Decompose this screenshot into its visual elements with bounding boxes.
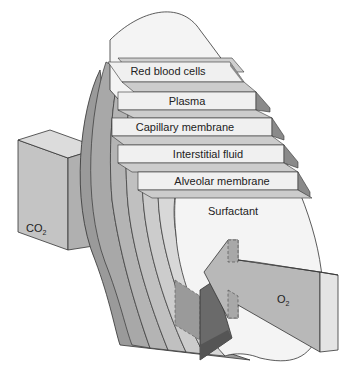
layer-label-surfactant: Surfactant [208, 205, 258, 217]
layer-label-capillary-membrane: Capillary membrane [136, 121, 234, 133]
layer-label-plasma: Plasma [169, 95, 207, 107]
layer-label-red-blood-cells: Red blood cells [130, 65, 206, 77]
respiratory-membrane-diagram: Red blood cells Plasma Capillary membran… [0, 0, 351, 388]
layer-label-alveolar-membrane: Alveolar membrane [174, 175, 269, 187]
layer-label-interstitial-fluid: Interstitial fluid [173, 148, 243, 160]
